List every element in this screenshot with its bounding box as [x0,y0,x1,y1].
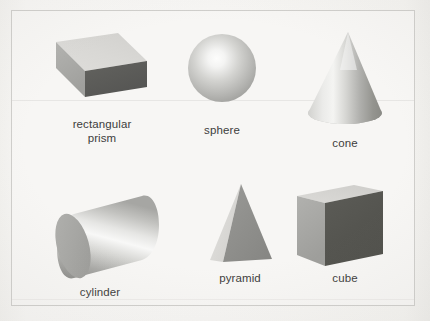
cube-left-face [297,196,325,266]
cone-lateral-surface [308,32,382,124]
sphere-shape [187,33,257,103]
pyramid-shape [203,182,279,268]
cylinder-shape [38,190,160,282]
label-cone: cone [305,137,385,151]
rectangular-prism-shape-render [46,32,158,106]
label-sphere: sphere [182,124,262,138]
label-pyramid: pyramid [200,272,280,286]
label-rectangular-prism: rectangular prism [46,118,158,145]
cube-shape [292,182,388,272]
figure-canvas: rectangular prism sphere [0,0,430,321]
label-cylinder: cylinder [40,286,160,300]
cube-front-face [325,191,383,266]
label-cube: cube [305,272,385,286]
cone-shape [302,30,388,126]
sphere-body [188,34,256,102]
